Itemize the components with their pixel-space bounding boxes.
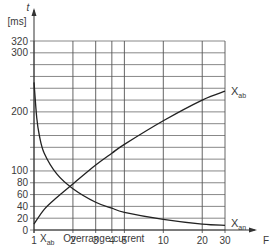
series-label: Xab bbox=[231, 85, 246, 99]
x-axis-arrow-icon bbox=[249, 228, 257, 233]
y-axis-arrow-icon bbox=[32, 8, 37, 16]
caption-symbol: Xab bbox=[40, 233, 54, 244]
caption-text: Overrange current bbox=[63, 233, 144, 244]
x-tick-label: 10 bbox=[158, 235, 170, 246]
y-tick-label: 0 bbox=[22, 225, 28, 236]
x-tick-label: 30 bbox=[219, 235, 231, 246]
y-axis-symbol: t bbox=[27, 2, 31, 13]
y-tick-label: 60 bbox=[17, 189, 29, 200]
curves bbox=[34, 82, 225, 225]
y-tick-label: 300 bbox=[11, 47, 28, 58]
series-label: Xan bbox=[231, 217, 246, 231]
series-labels: XabXan bbox=[231, 85, 246, 231]
y-tick-label: 100 bbox=[11, 165, 28, 176]
y-tick-label: 20 bbox=[17, 213, 29, 224]
y-tick-label: 320 bbox=[11, 36, 28, 47]
grid bbox=[30, 41, 225, 233]
y-tick-label: 200 bbox=[11, 106, 28, 117]
caption: Xab Overrange current bbox=[40, 233, 144, 246]
y-tick-label: 40 bbox=[17, 201, 29, 212]
axes bbox=[32, 8, 258, 233]
x-tick-label: 1 bbox=[31, 235, 37, 246]
y-axis-unit: [ms] bbox=[8, 16, 27, 27]
x-axis-label: F bbox=[263, 235, 269, 246]
curve-x-ab bbox=[34, 91, 225, 224]
chart: 02040608010020030032012345102030Ft[ms] X… bbox=[0, 0, 273, 248]
x-tick-label: 20 bbox=[197, 235, 209, 246]
curve-x-an bbox=[34, 82, 225, 225]
y-tick-label: 80 bbox=[17, 177, 29, 188]
